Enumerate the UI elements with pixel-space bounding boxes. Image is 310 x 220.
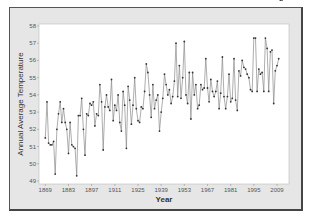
data-point: [137, 120, 139, 122]
data-point: [71, 144, 73, 146]
x-axis: 1869188318971911192519391953196719811995…: [39, 184, 285, 193]
data-point: [164, 73, 166, 75]
data-point: [180, 97, 182, 99]
data-point: [205, 58, 207, 60]
data-point: [145, 63, 147, 65]
data-point: [89, 103, 91, 105]
data-point: [167, 94, 169, 96]
data-point: [174, 80, 176, 82]
data-point: [119, 122, 121, 124]
data-point: [131, 123, 133, 125]
data-point: [155, 99, 157, 101]
y-tick-label: 54: [29, 92, 36, 98]
data-point: [53, 141, 55, 143]
data-point: [116, 110, 118, 112]
data-point: [87, 115, 89, 117]
data-point: [253, 37, 255, 39]
data-point: [192, 72, 194, 74]
data-point: [73, 146, 75, 148]
data-point: [84, 154, 86, 156]
data-point: [59, 101, 61, 103]
data-point: [69, 122, 71, 124]
data-point: [188, 72, 190, 74]
data-point: [217, 80, 219, 82]
data-point: [190, 118, 192, 120]
data-point: [76, 175, 78, 177]
data-point: [268, 91, 270, 93]
data-point: [150, 116, 152, 118]
data-point: [271, 49, 273, 51]
x-axis-title: Year: [156, 195, 173, 204]
x-tick-label: 2009: [270, 187, 284, 193]
data-point: [187, 103, 189, 105]
data-point: [222, 56, 224, 58]
data-point: [63, 108, 65, 110]
data-point: [99, 84, 101, 86]
data-point: [96, 113, 98, 115]
data-point: [122, 91, 124, 93]
data-point: [114, 104, 116, 106]
data-point: [94, 125, 96, 127]
data-point: [207, 87, 209, 89]
data-point: [263, 91, 265, 93]
data-point: [58, 113, 60, 115]
data-point: [220, 92, 222, 94]
data-point: [195, 84, 197, 86]
data-point: [213, 96, 215, 98]
data-point: [106, 94, 108, 96]
data-point: [230, 101, 232, 103]
data-point: [223, 96, 225, 98]
data-point: [111, 79, 113, 81]
data-point: [251, 91, 253, 93]
y-tick-label: 57: [29, 40, 36, 46]
data-point: [54, 173, 56, 175]
data-point: [117, 94, 119, 96]
data-point: [215, 91, 217, 93]
data-point: [142, 108, 144, 110]
data-point: [78, 115, 80, 117]
data-point: [243, 66, 245, 68]
data-point: [248, 77, 250, 79]
data-point: [177, 96, 179, 98]
data-point: [160, 111, 162, 113]
data-point: [250, 89, 252, 91]
data-point: [175, 42, 177, 44]
data-point: [135, 108, 137, 110]
data-point: [147, 72, 149, 74]
data-point: [270, 51, 272, 53]
data-point: [276, 65, 278, 67]
data-point: [203, 87, 205, 89]
data-point: [51, 144, 53, 146]
data-point: [279, 0, 281, 1]
data-point: [134, 77, 136, 79]
data-point: [56, 128, 58, 130]
data-point: [44, 137, 46, 139]
y-tick-label: 51: [29, 144, 36, 150]
data-point: [212, 91, 214, 93]
plot-area: [39, 24, 289, 184]
data-point: [246, 73, 248, 75]
data-point: [109, 110, 111, 112]
data-point: [210, 79, 212, 81]
data-point: [157, 94, 159, 96]
data-point: [126, 147, 128, 149]
data-point: [241, 60, 243, 62]
data-point: [170, 103, 172, 105]
data-point: [236, 110, 238, 112]
data-point: [61, 122, 63, 124]
data-point: [107, 106, 109, 108]
data-point: [92, 101, 94, 103]
data-point: [159, 130, 161, 132]
data-point: [121, 130, 123, 132]
data-point: [273, 103, 275, 105]
data-point: [245, 68, 247, 70]
line-chart: 49505152535455565758 1869188318971911192…: [0, 0, 310, 220]
x-tick-label: 1981: [224, 187, 238, 193]
y-tick-label: 53: [29, 109, 36, 115]
data-point: [231, 97, 233, 99]
data-point: [256, 91, 258, 93]
data-point: [86, 113, 88, 115]
data-point: [227, 96, 229, 98]
data-point: [165, 84, 167, 86]
data-point: [79, 115, 81, 117]
